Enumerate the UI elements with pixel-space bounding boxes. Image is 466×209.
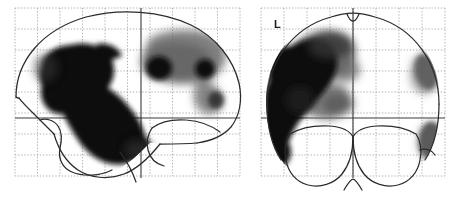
coronal-left-hemisphere-label: L bbox=[274, 19, 281, 30]
sagittal-projection-panel bbox=[0, 0, 250, 209]
coronal-projection-panel: L bbox=[250, 0, 466, 209]
coronal-projection-svg bbox=[250, 0, 466, 209]
sagittal-projection-svg bbox=[0, 0, 250, 209]
glass-brain-figure: L bbox=[0, 0, 466, 209]
